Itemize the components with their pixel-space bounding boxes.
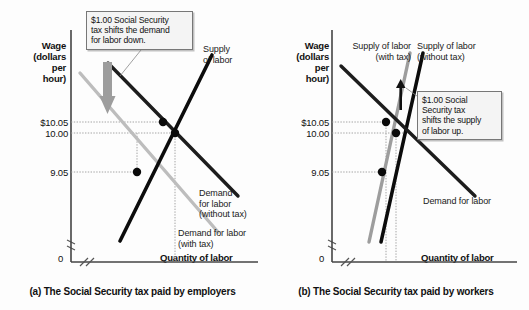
equilibrium-dot-10-05-b	[382, 118, 390, 126]
curve-label-line: Demand for labor	[423, 196, 491, 207]
curve-label-demand-without-tax-a: Demand for labor (without tax)	[199, 188, 247, 220]
callout-line: Security tax	[422, 105, 497, 115]
callout-line: tax shifts the demand	[91, 25, 188, 35]
callout-line: $1.00 Social	[422, 95, 497, 105]
curve-label-line: (without tax)	[417, 52, 476, 63]
callout-line: shifts the supply	[422, 115, 497, 125]
panel-b: Wage (dollars per hour) $10.05 10.00 9.0…	[265, 0, 529, 310]
social-security-tax-figure: Wage (dollars per hour) $10.05 10.00 9.0…	[0, 0, 529, 310]
curve-label-supply-with-tax-b: Supply of labor (with tax)	[323, 41, 411, 62]
callout-line: $1.00 Social Security	[91, 15, 188, 25]
callout-line: of labor up.	[422, 126, 497, 136]
equilibrium-dot-9-05-a	[133, 168, 141, 176]
curve-label-line: of labor	[203, 55, 232, 66]
curve-label-line: Demand for labor	[178, 228, 246, 239]
curve-label-demand-b: Demand for labor	[423, 196, 491, 207]
equilibrium-dot-9-05-b	[378, 168, 386, 176]
callout-b: $1.00 Social Security tax shifts the sup…	[417, 91, 502, 140]
curve-label-supply-without-tax-b: Supply of labor (without tax)	[417, 41, 476, 62]
curve-label-line: (with tax)	[323, 52, 411, 63]
equilibrium-dot-10-00-a	[171, 129, 179, 137]
supply-without-tax-curve-b	[381, 53, 423, 242]
curve-label-line: (with tax)	[178, 239, 246, 250]
curve-label-supply-a: Supply of labor	[203, 44, 232, 65]
curve-label-demand-with-tax-a: Demand for labor (with tax)	[178, 228, 246, 249]
equilibrium-dot-10-00-b	[392, 129, 400, 137]
curve-label-line: (without tax)	[199, 209, 247, 220]
curve-label-line: Supply	[203, 44, 232, 55]
curve-label-line: Supply of labor	[323, 41, 411, 52]
caption-b: (b) The Social Security tax paid by work…	[267, 286, 525, 297]
curve-label-line: for labor	[199, 199, 247, 210]
callout-line: for labor down.	[91, 35, 188, 45]
equilibrium-dot-10-05-a	[159, 118, 167, 126]
curve-label-line: Supply of labor	[417, 41, 476, 52]
panel-a: Wage (dollars per hour) $10.05 10.00 9.0…	[0, 0, 264, 310]
supply-with-tax-curve-b	[369, 53, 410, 242]
callout-a: $1.00 Social Security tax shifts the dem…	[86, 11, 193, 50]
callout-leader-a	[120, 50, 141, 76]
caption-a: (a) The Social Security tax paid by empl…	[5, 286, 260, 297]
curve-label-line: Demand	[199, 188, 247, 199]
